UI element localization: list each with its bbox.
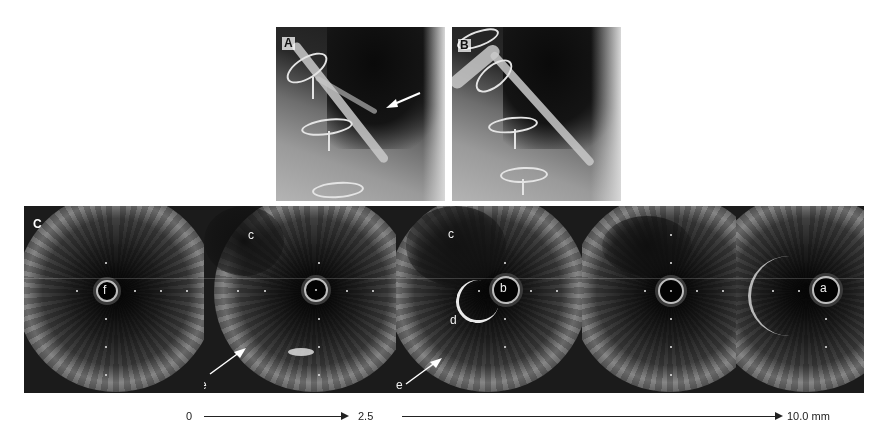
clip-stem	[522, 179, 524, 195]
calibration-dot	[670, 346, 672, 348]
panel-label-b: B	[458, 39, 471, 52]
calibration-dot	[670, 262, 672, 264]
clip-stem	[312, 77, 314, 99]
arrow-e-icon	[404, 356, 444, 386]
calibration-dot	[478, 290, 480, 292]
calibration-dot	[318, 262, 320, 264]
calibration-dot	[318, 346, 320, 348]
calibration-dot	[76, 290, 78, 292]
surgical-clip	[312, 180, 365, 200]
angiogram-panel-b: B	[452, 27, 621, 201]
calibration-dot	[670, 318, 672, 320]
calibration-dot	[530, 290, 532, 292]
ivus-frame-3: b c d e	[396, 206, 582, 393]
ivus-frame-1: f	[24, 206, 204, 393]
calibration-dot	[134, 290, 136, 292]
catheter-center	[670, 290, 672, 292]
calibration-dot	[772, 290, 774, 292]
lesion-arrow-icon	[384, 91, 424, 111]
ivus-frame-4	[582, 206, 736, 393]
panel-label-a: A	[282, 37, 295, 50]
calibration-dot	[264, 290, 266, 292]
calibration-dot	[504, 346, 506, 348]
calibration-dot	[696, 290, 698, 292]
scale-segment-2	[402, 416, 775, 417]
label-b: b	[500, 282, 507, 294]
calibration-dot	[105, 262, 107, 264]
calibration-dot	[504, 262, 506, 264]
calibration-dot	[105, 318, 107, 320]
calibration-dot	[372, 290, 374, 292]
figure: A B f	[0, 0, 891, 443]
scale-start-label: 0	[186, 409, 192, 423]
echolucent-region	[204, 206, 284, 276]
calibration-dot	[237, 290, 239, 292]
ivus-strip-panel-c: f c e	[24, 206, 864, 393]
calibration-dot	[160, 290, 162, 292]
arrowhead-icon	[775, 412, 783, 420]
calibration-dot	[105, 374, 107, 376]
calibration-dot	[186, 290, 188, 292]
catheter-center	[315, 289, 317, 291]
label-e: e	[204, 379, 207, 391]
calcium-spot	[288, 348, 314, 356]
calibration-dot	[318, 374, 320, 376]
label-e: e	[396, 379, 403, 391]
scale-mid-label: 2.5	[358, 409, 373, 423]
calibration-dot	[556, 290, 558, 292]
pullback-scale-bar: 0 2.5 10.0 mm	[0, 408, 891, 428]
surgical-clip	[500, 166, 549, 184]
calibration-dot	[670, 374, 672, 376]
panel-label-c: C	[33, 217, 42, 231]
scale-segment-1	[204, 416, 341, 417]
angiogram-panel-a: A	[276, 27, 445, 201]
clip-stem	[328, 131, 330, 151]
light-edge	[591, 27, 621, 201]
echolucent-region	[602, 216, 692, 276]
ivus-frame-2: c e	[204, 206, 396, 393]
calibration-dot	[670, 234, 672, 236]
label-c: c	[448, 228, 454, 240]
calibration-dot	[644, 290, 646, 292]
scale-end-label: 10.0 mm	[787, 409, 830, 423]
label-a: a	[820, 282, 827, 294]
calibration-dot	[318, 318, 320, 320]
catheter-lumen	[96, 280, 118, 302]
clip-stem	[514, 129, 516, 149]
light-edge	[423, 27, 445, 201]
calibration-dot	[825, 346, 827, 348]
calibration-dot	[504, 318, 506, 320]
calibration-dot	[346, 290, 348, 292]
label-f: f	[103, 284, 106, 296]
arrow-e-icon	[208, 346, 248, 376]
calibration-dot	[825, 318, 827, 320]
calibration-dot	[105, 346, 107, 348]
label-c: c	[248, 229, 254, 241]
label-d: d	[450, 314, 457, 326]
calibration-dot	[798, 290, 800, 292]
horizontal-reference-line	[24, 278, 864, 279]
calibration-dot	[722, 290, 724, 292]
arrowhead-icon	[341, 412, 349, 420]
ivus-frame-5: a	[736, 206, 864, 393]
echolucent-region	[406, 206, 506, 286]
